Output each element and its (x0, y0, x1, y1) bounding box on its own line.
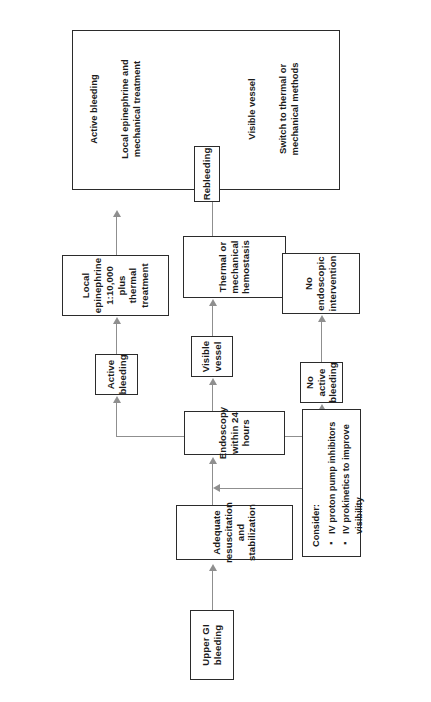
node-no-active-bleeding-label: No active bleeding (304, 362, 340, 402)
connector-endoscopy-to-active-bleeding-horizontal (116, 401, 117, 437)
connector-visible-vessel-to-thermal (212, 304, 213, 336)
node-no-active-bleeding[interactable]: No active bleeding (300, 362, 343, 403)
connector-active-bleeding-to-epinephrine (116, 322, 117, 354)
outcome-panel-column-2-heading: Visible vessel (241, 57, 263, 161)
node-no-endoscopic-intervention[interactable]: No endoscopic intervention (282, 253, 360, 314)
arrowhead-endoscopy-to-visible-vessel (209, 378, 217, 385)
node-adequate-resuscitation[interactable]: Adequate resuscitation and stabilization (176, 505, 293, 560)
node-visible-vessel[interactable]: Visible vessel (191, 336, 233, 377)
node-active-bleeding[interactable]: Active bleeding (95, 354, 138, 395)
outcome-panel-column-1-action: Local epinephrine and mechanical treatme… (111, 49, 151, 169)
note-consider-item-prokinetics: IV prokinetics to improve visibility (340, 419, 368, 534)
arrowhead-no-active-bleeding-to-no-intervention (318, 315, 326, 322)
connector-no-active-bleeding-to-no-intervention (321, 320, 322, 362)
arrowhead-epinephrine-to-outcome-panel (113, 210, 121, 217)
connector-endoscopy-to-active-bleeding-vertical (116, 436, 192, 437)
connector-thermal-to-outcome-panel (212, 196, 213, 236)
node-local-epinephrine-label: Local epinephrine 1:10,000 plus thermal … (80, 258, 152, 313)
connector-endoscopy-to-visible-vessel (212, 383, 213, 411)
node-endoscopy-24-hours[interactable]: Endoscopy within 24 hours (184, 411, 285, 455)
arrowhead-visible-vessel-to-thermal (209, 299, 217, 306)
outcome-panel-column-2-action: Switch to thermal or mechanical methods (269, 49, 309, 169)
arrowhead-start-to-resuscitation (209, 564, 217, 571)
note-consider[interactable]: Consider: IV proton pump inhibitors IV p… (302, 409, 361, 557)
node-thermal-mechanical-hemostasis[interactable]: Thermal or mechanical hemostasis (183, 236, 286, 298)
node-upper-gi-bleeding-label: Upper GI bleeding (200, 615, 224, 675)
node-rebleeding[interactable]: Rebleeding (194, 146, 220, 202)
node-rebleeding-label: Rebleeding (201, 148, 213, 201)
node-active-bleeding-label: Active bleeding (105, 354, 129, 394)
note-consider-item-ppi: IV proton pump inhibitors (326, 419, 340, 534)
node-local-epinephrine[interactable]: Local epinephrine 1:10,000 plus thermal … (62, 255, 169, 316)
node-no-endoscopic-intervention-label: No endoscopic intervention (303, 255, 339, 311)
arrowhead-resuscitation-to-endoscopy (209, 457, 217, 464)
connector-start-to-resuscitation (212, 569, 213, 611)
connector-epinephrine-to-outcome-panel (116, 215, 117, 255)
node-visible-vessel-label: Visible vessel (200, 341, 224, 372)
node-upper-gi-bleeding[interactable]: Upper GI bleeding (190, 610, 234, 680)
node-adequate-resuscitation-label: Adequate resuscitation and stabilization (211, 502, 259, 563)
node-thermal-mechanical-hemostasis-label: Thermal or mechanical hemostasis (217, 240, 253, 294)
arrowhead-endoscopy-to-active-bleeding (113, 396, 121, 403)
arrowhead-active-bleeding-to-epinephrine (113, 317, 121, 324)
flowchart-rotation-stage: Upper GI bleeding Adequate resuscitation… (0, 0, 431, 702)
note-consider-title: Consider: (310, 419, 324, 547)
outcome-panel-column-1-heading: Active bleeding (83, 57, 105, 161)
node-endoscopy-24-hours-label: Endoscopy within 24 hours (217, 407, 253, 460)
connector-note-to-pathway-vertical (218, 488, 302, 489)
flowchart-canvas: Upper GI bleeding Adequate resuscitation… (0, 0, 431, 702)
arrowhead-note-to-pathway (213, 485, 220, 493)
note-consider-list: IV proton pump inhibitors IV prokinetics… (326, 419, 367, 547)
